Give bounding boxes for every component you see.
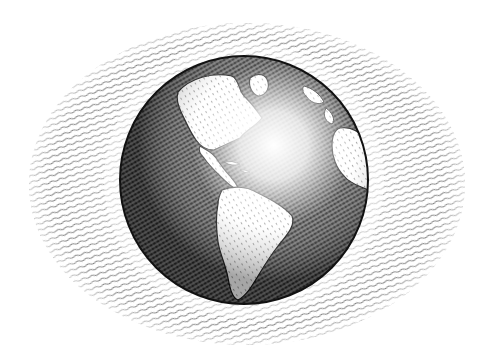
globe-illustration — [0, 0, 491, 356]
globe-highlight — [120, 56, 368, 304]
globe — [120, 56, 368, 304]
globe-artwork — [0, 0, 491, 356]
